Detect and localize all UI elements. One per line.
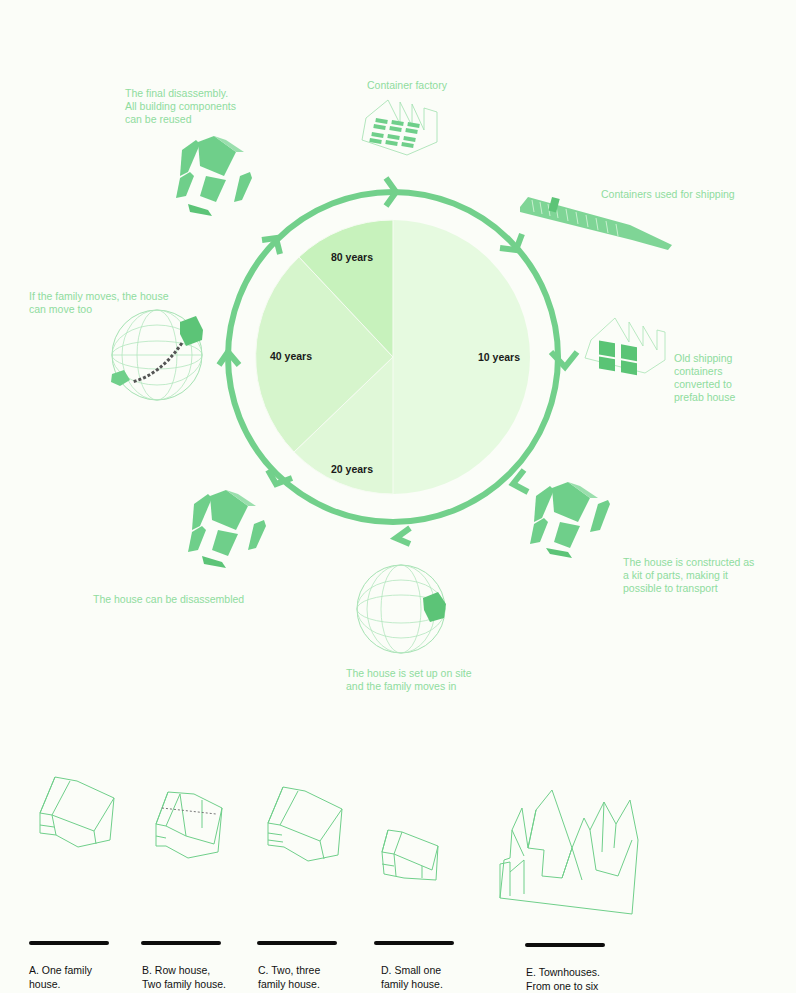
house-type-d-drawing	[382, 830, 438, 880]
caption-line: can move too	[29, 303, 168, 316]
house-type-a: A. One family house.	[29, 963, 92, 991]
caption-set-up-on-site: The house is set up on site and the fami…	[346, 667, 472, 693]
divider-bar	[374, 941, 454, 945]
house-type-label: family house.	[381, 977, 443, 991]
house-type-label: B. Row house,	[142, 963, 226, 977]
caption-family-moves: If the family moves, the house can move …	[29, 290, 168, 316]
house-type-c: C. Two, three family house.	[258, 963, 320, 991]
caption-line: a kit of parts, making it	[623, 569, 754, 582]
caption-line: and the family moves in	[346, 680, 472, 693]
caption-line: The house is set up on site	[346, 667, 472, 680]
house-type-e-drawing	[500, 790, 638, 914]
caption-line: All building components	[125, 100, 236, 113]
pie-label-20-years: 20 years	[331, 463, 373, 475]
caption-containers-shipping: Containers used for shipping	[601, 188, 735, 201]
house-type-b: B. Row house, Two family house.	[142, 963, 226, 991]
caption-line: The house is constructed as	[623, 556, 754, 569]
caption-line: If the family moves, the house	[29, 290, 168, 303]
house-type-label: family house.	[258, 977, 320, 991]
caption-disassembled: The house can be disassembled	[93, 593, 244, 606]
caption-kit-of-parts: The house is constructed as a kit of par…	[623, 556, 754, 595]
globe-house-icon	[357, 565, 446, 653]
caption-container-factory: Container factory	[367, 79, 447, 92]
caption-line: converted to	[674, 378, 735, 391]
caption-line: prefab house	[674, 391, 735, 404]
house-type-label: E. Townhouses.	[526, 965, 600, 979]
divider-bar	[141, 941, 221, 945]
caption-final-disassembly: The final disassembly. All building comp…	[125, 87, 236, 126]
kit-of-parts-icon	[530, 482, 610, 558]
globe-move-icon	[111, 310, 203, 400]
house-type-b-drawing	[156, 792, 222, 858]
ship-icon	[520, 197, 672, 250]
pie-label-40-years: 40 years	[270, 350, 312, 362]
container-house-icon	[585, 318, 665, 375]
house-type-label: house.	[29, 977, 92, 991]
arrow-icon	[513, 470, 528, 492]
divider-bar	[29, 941, 109, 945]
house-type-label: Two family house.	[142, 977, 226, 991]
disassembled-parts-icon	[188, 490, 266, 568]
house-type-a-drawing	[40, 777, 114, 847]
house-type-label: C. Two, three	[258, 963, 320, 977]
pie-label-10-years: 10 years	[478, 351, 520, 363]
caption-converted: Old shipping containers converted to pre…	[674, 352, 735, 404]
arrow-icon	[396, 528, 410, 544]
house-type-label: From one to six	[526, 979, 600, 993]
house-type-e: E. Townhouses. From one to six	[526, 965, 600, 993]
caption-line: The final disassembly.	[125, 87, 236, 100]
reused-parts-icon	[176, 136, 252, 216]
house-type-c-drawing	[268, 787, 342, 861]
caption-line: containers	[674, 365, 735, 378]
caption-line: can be reused	[125, 113, 236, 126]
house-type-label: A. One family	[29, 963, 92, 977]
house-type-d: D. Small one family house.	[381, 963, 443, 991]
house-type-label: D. Small one	[381, 963, 443, 977]
pie-label-80-years: 80 years	[331, 251, 373, 263]
caption-line: possible to transport	[623, 582, 754, 595]
cycle-diagram	[0, 0, 796, 993]
caption-line: Old shipping	[674, 352, 735, 365]
divider-bar	[525, 943, 605, 947]
divider-bar	[257, 941, 337, 945]
factory-icon	[362, 100, 437, 155]
